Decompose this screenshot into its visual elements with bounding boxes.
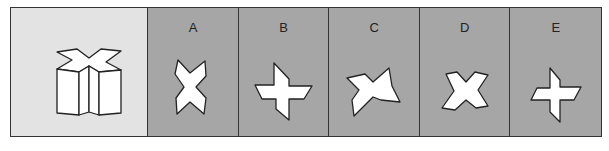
option-label: D xyxy=(420,20,510,35)
option-c[interactable]: C xyxy=(329,8,420,136)
option-e[interactable]: E xyxy=(510,8,601,136)
skewed-cross-small-icon xyxy=(528,66,584,124)
option-b[interactable]: B xyxy=(239,8,330,136)
option-label: A xyxy=(148,20,238,35)
tilted-x-star-icon xyxy=(345,66,403,118)
option-label: C xyxy=(329,20,419,35)
horizontal-x-star-icon xyxy=(440,70,492,114)
vertical-x-star-icon xyxy=(174,58,210,118)
skewed-cross-icon xyxy=(254,61,314,123)
option-a[interactable]: A xyxy=(148,8,239,136)
question-panel xyxy=(11,8,148,136)
option-label: B xyxy=(239,20,329,35)
puzzle-strip: A B C D E xyxy=(10,7,602,137)
option-label: E xyxy=(510,20,601,35)
option-d[interactable]: D xyxy=(420,8,511,136)
x-prism-icon xyxy=(55,48,123,120)
